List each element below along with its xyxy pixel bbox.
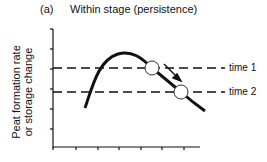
state-circle-time1 [145,61,159,75]
state-circle-time2 [174,85,188,99]
time2-label: time 2 [229,86,256,97]
x-axis [53,147,200,150]
y-axis [50,29,53,148]
dashed-lines [53,68,225,92]
curve [85,53,205,111]
diagram-canvas [0,0,267,162]
time1-label: time 1 [229,62,256,73]
